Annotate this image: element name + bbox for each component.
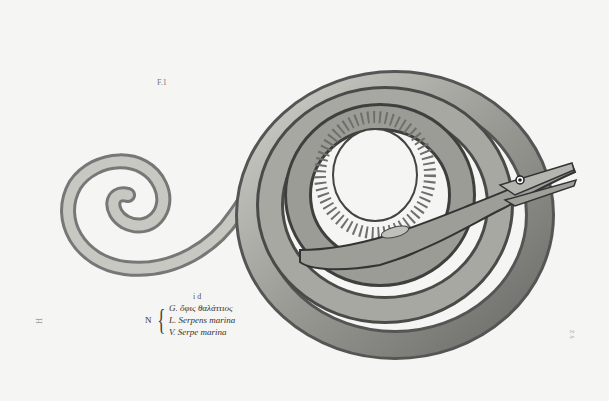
engraving-plate: F.1 i d N { G. ὄφις θαλάττιος L. Serpens… [0, 0, 609, 401]
left-margin-mark: H [34, 318, 43, 324]
id-mark: i d [193, 292, 201, 301]
brace-icon: { [157, 304, 166, 334]
caption-latin: L. Serpens marina [169, 314, 235, 326]
figure-number: F.1 [157, 78, 167, 87]
caption-greek: G. ὄφις θαλάττιος [169, 302, 235, 314]
right-margin-mark: z s [568, 330, 577, 339]
caption-prefix: N [145, 314, 152, 326]
caption-vernacular: V. Serpe marina [169, 326, 235, 338]
coil-center [333, 129, 417, 221]
sea-serpent-illustration [0, 0, 609, 401]
